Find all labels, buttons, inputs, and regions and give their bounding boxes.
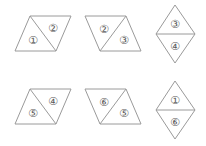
shape-2-right-label: ③ [119,34,129,47]
shape-5-parallelogram: ⑥ ⑤ [84,88,142,125]
shape-5-right-label: ⑤ [119,107,129,120]
shape-5-left-label: ⑥ [99,96,109,109]
shape-2-left-label: ② [99,23,109,36]
shape-1-parallelogram: ① ② [14,15,72,52]
shape-4-right-label: ④ [48,95,58,108]
shape-4-left-label: ⑤ [28,107,38,120]
shape-6-top-label: ① [170,94,180,107]
shape-4-parallelogram: ⑤ ④ [14,88,72,125]
shape-3-top-label: ③ [170,18,180,31]
shape-6-rhombus: ① ⑥ [155,80,196,140]
figure-canvas: ① ② ② ③ ③ ④ ⑤ ④ ⑥ ⑤ ① ⑥ [0,0,206,146]
shape-2-parallelogram: ② ③ [84,15,142,52]
shape-6-bottom-label: ⑥ [170,116,180,129]
shape-1-left-label: ① [28,34,38,47]
shape-3-rhombus: ③ ④ [155,4,196,64]
shape-3-bottom-label: ④ [170,40,180,53]
shape-1-right-label: ② [48,22,58,35]
